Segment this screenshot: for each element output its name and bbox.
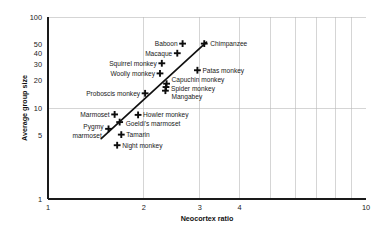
- point-label-spider-monkey: Spider monkey: [171, 85, 216, 93]
- x-tick-label-3: 3: [198, 203, 202, 212]
- marker-marmoset: [111, 111, 118, 118]
- y-tick-label-5: 5: [38, 131, 42, 140]
- x-axis-title: Neocortex ratio: [181, 214, 234, 223]
- point-label-squirrel-monkey: Squirrel monkey: [109, 60, 157, 68]
- point-label-macaque: Macaque: [145, 50, 172, 58]
- marker-baboon: [179, 40, 186, 47]
- y-tick-label-40: 40: [34, 49, 42, 58]
- marker-macaque: [174, 50, 181, 57]
- marker-pygmy-marmoset: [105, 125, 112, 132]
- x-tick-label-2: 2: [142, 203, 146, 212]
- marker-woolly-monkey: [157, 70, 164, 77]
- y-tick-label-1: 1: [38, 195, 42, 204]
- x-tick-label-10: 10: [362, 203, 370, 212]
- point-label-woolly-monkey: Woolly monkey: [110, 70, 155, 78]
- point-label-patas-monkey: Patas monkey: [202, 67, 244, 75]
- y-tick-label-50: 50: [34, 40, 42, 49]
- marker-mangabey: [162, 87, 169, 94]
- point-label-pygmy-marmoset: Pygmy: [83, 123, 104, 131]
- point-label-goeldi-s-marmoset: Goeldi's marmoset: [126, 120, 181, 127]
- point-label-chimpanzee: Chimpanzee: [210, 40, 247, 48]
- point-label-howler-monkey: Howler monkey: [143, 111, 189, 119]
- marker-tamarin: [118, 131, 125, 138]
- marker-night-monkey: [114, 142, 121, 149]
- marker-squirrel-monkey: [158, 60, 165, 67]
- y-tick-label-30: 30: [34, 60, 42, 69]
- marker-howler-monkey: [135, 111, 142, 118]
- point-label-mangabey: Mangabey: [171, 93, 202, 101]
- chart-figure: ChimpanzeeBaboonMacaqueSquirrel monkeyPa…: [0, 0, 378, 243]
- point-label-capuchin-monkey: Capuchin monkey: [172, 76, 225, 84]
- point-label-tamarin: Tamarin: [126, 131, 150, 138]
- data-point-labels: ChimpanzeeBaboonMacaqueSquirrel monkeyPa…: [72, 40, 247, 150]
- scatter-plot: ChimpanzeeBaboonMacaqueSquirrel monkeyPa…: [0, 0, 378, 243]
- point-label-night-monkey: Night monkey: [122, 142, 163, 150]
- x-tick-label-4: 4: [237, 203, 241, 212]
- y-tick-label-20: 20: [34, 76, 42, 85]
- x-tick-label-1: 1: [46, 203, 50, 212]
- point-label-marmoset: Marmoset: [80, 111, 109, 118]
- point-label-pygmy-marmoset-line2: marmoset: [72, 132, 101, 139]
- y-axis-title: Average group size: [20, 75, 29, 141]
- y-tick-label-100: 100: [30, 13, 42, 22]
- point-label-baboon: Baboon: [155, 40, 178, 47]
- y-tick-label-10: 10: [34, 104, 42, 113]
- point-label-proboscis-monkey: Proboscis monkey: [86, 90, 141, 98]
